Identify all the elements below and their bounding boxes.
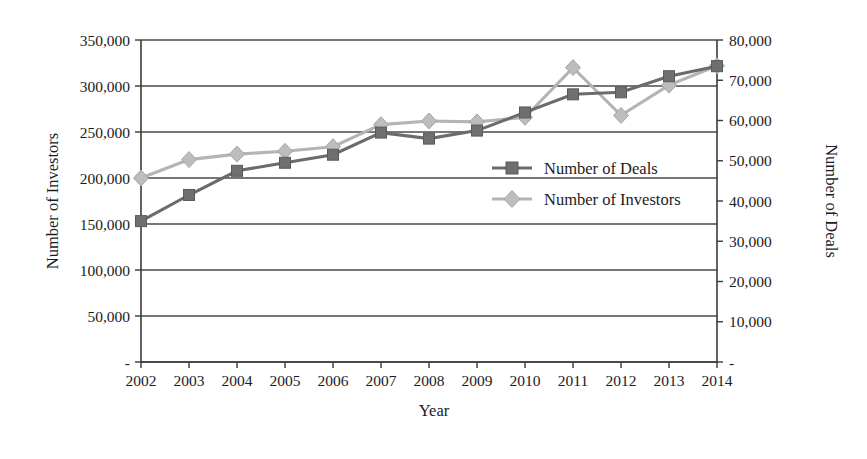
data-point[interactable] xyxy=(182,152,197,168)
data-point[interactable] xyxy=(376,127,387,138)
y-tick-label-right: 40,000 xyxy=(729,193,772,210)
legend-item[interactable]: Number of Investors xyxy=(492,190,681,209)
x-axis-title: Year xyxy=(419,401,450,420)
y-axis-left: -50,000100,000150,000200,000250,000300,0… xyxy=(80,32,141,371)
y-axis-left-title: Number of Investors xyxy=(43,133,62,270)
data-point[interactable] xyxy=(280,157,291,168)
chart-container: -50,000100,000150,000200,000250,000300,0… xyxy=(0,0,867,459)
y-tick-label-left: 50,000 xyxy=(87,308,130,325)
y-tick-label-right: 20,000 xyxy=(729,273,772,290)
y-axis-right: -10,00020,00030,00040,00050,00060,00070,… xyxy=(717,32,772,371)
x-tick-label: 2010 xyxy=(510,372,541,389)
y-tick-label-right: 30,000 xyxy=(729,233,772,250)
data-point[interactable] xyxy=(520,107,531,118)
data-point[interactable] xyxy=(424,133,435,144)
data-point[interactable] xyxy=(472,125,483,136)
legend-marker xyxy=(506,162,518,174)
data-point[interactable] xyxy=(134,170,149,186)
x-axis: 2002200320042005200620072008200920102011… xyxy=(126,362,733,389)
legend-item[interactable]: Number of Deals xyxy=(492,159,658,178)
y-tick-label-left: 250,000 xyxy=(80,124,131,141)
x-tick-label: 2007 xyxy=(366,372,397,389)
x-tick-label: 2011 xyxy=(558,372,588,389)
y-tick-label-right: 50,000 xyxy=(729,152,772,169)
y-tick-label-left: 350,000 xyxy=(80,32,131,49)
legend-label: Number of Investors xyxy=(544,190,681,209)
y-tick-label-left: 150,000 xyxy=(80,216,131,233)
data-point[interactable] xyxy=(230,146,245,162)
data-point[interactable] xyxy=(616,87,627,98)
y-tick-label-right: 80,000 xyxy=(729,32,772,49)
x-tick-label: 2002 xyxy=(126,372,157,389)
legend-label: Number of Deals xyxy=(544,159,658,178)
y-axis-right-title: Number of Deals xyxy=(822,144,841,258)
data-point[interactable] xyxy=(232,165,243,176)
data-point[interactable] xyxy=(184,189,195,200)
y-tick-label-right: 10,000 xyxy=(729,313,772,330)
y-tick-label-left: - xyxy=(125,354,130,371)
y-tick-label-right: 60,000 xyxy=(729,112,772,129)
x-tick-label: 2006 xyxy=(318,372,349,389)
x-tick-label: 2003 xyxy=(174,372,205,389)
data-point[interactable] xyxy=(328,149,339,160)
x-tick-label: 2014 xyxy=(702,372,733,389)
legend: Number of DealsNumber of Investors xyxy=(492,159,681,209)
y-tick-label-right: - xyxy=(729,354,734,371)
x-tick-label: 2012 xyxy=(606,372,637,389)
x-tick-label: 2009 xyxy=(462,372,493,389)
y-tick-label-left: 100,000 xyxy=(80,262,131,279)
data-point[interactable] xyxy=(664,71,675,82)
data-point[interactable] xyxy=(568,89,579,100)
data-point[interactable] xyxy=(136,216,147,227)
data-point[interactable] xyxy=(422,113,437,129)
data-point[interactable] xyxy=(712,61,723,72)
x-tick-label: 2008 xyxy=(414,372,445,389)
x-tick-label: 2004 xyxy=(222,372,253,389)
y-tick-label-left: 200,000 xyxy=(80,170,131,187)
y-tick-label-left: 300,000 xyxy=(80,78,131,95)
line-chart: -50,000100,000150,000200,000250,000300,0… xyxy=(0,0,867,459)
x-tick-label: 2013 xyxy=(654,372,685,389)
y-tick-label-right: 70,000 xyxy=(729,72,772,89)
legend-marker xyxy=(504,191,520,208)
x-tick-label: 2005 xyxy=(270,372,301,389)
